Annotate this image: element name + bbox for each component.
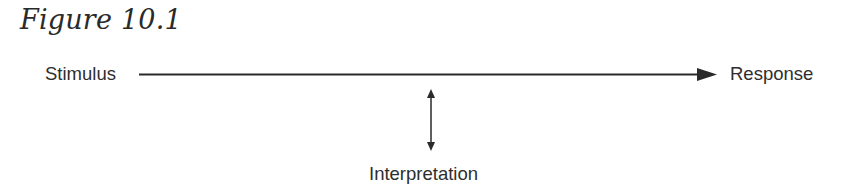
diagram-arrows bbox=[0, 0, 862, 194]
arrowhead-down-icon bbox=[427, 142, 435, 151]
stimulus-response-arrow bbox=[139, 68, 717, 81]
arrowhead-up-icon bbox=[427, 89, 435, 98]
interpretation-double-arrow bbox=[427, 89, 435, 151]
arrowhead-icon bbox=[697, 68, 717, 81]
